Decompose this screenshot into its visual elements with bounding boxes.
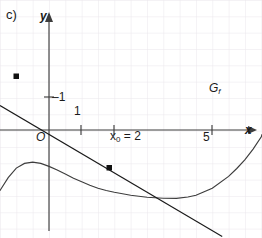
part-label: c) bbox=[6, 8, 17, 21]
curve-label-base: G bbox=[209, 81, 218, 95]
x0-value: = 2 bbox=[120, 129, 140, 143]
marked-point-left bbox=[14, 74, 20, 80]
plot-grid bbox=[0, 0, 262, 238]
marked-point-tangency bbox=[107, 165, 113, 171]
x-tick-label-one: 1 bbox=[74, 105, 81, 117]
x0-annotation: x0 = 2 bbox=[110, 130, 141, 144]
origin-label: O bbox=[36, 131, 45, 143]
y-tick-label-minus-one: –1 bbox=[52, 91, 65, 103]
curve-label: Gf bbox=[209, 82, 221, 96]
x-axis-label: x bbox=[245, 124, 252, 136]
y-axis-label: y bbox=[40, 10, 47, 22]
figure-container: c) y x O –1 1 5 x0 = 2 Gf bbox=[0, 0, 262, 238]
coordinate-plot bbox=[0, 0, 262, 238]
x-tick-label-five: 5 bbox=[203, 131, 210, 143]
curve-label-subscript: f bbox=[218, 87, 220, 96]
